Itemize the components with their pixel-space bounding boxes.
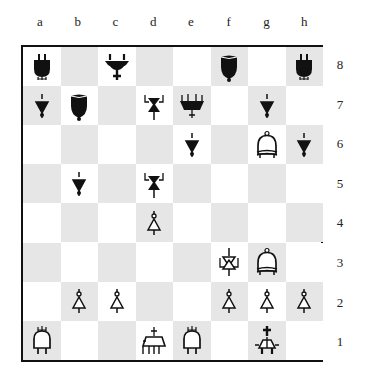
square-g2[interactable] [248,282,286,321]
square-g5[interactable] [248,164,286,203]
square-g3[interactable] [248,243,286,282]
square-e6[interactable] [173,125,211,164]
rank-label-2: 2 [330,283,350,323]
square-c5[interactable] [98,164,136,203]
square-f4[interactable] [211,203,249,242]
square-b6[interactable] [61,125,99,164]
rank-label-7: 7 [330,85,350,125]
white-bishop-icon[interactable] [248,243,286,282]
square-f1[interactable] [211,321,249,360]
black-rook-icon[interactable] [23,47,61,86]
square-d2[interactable] [136,282,174,321]
square-c6[interactable] [98,125,136,164]
square-b1[interactable] [61,321,99,360]
square-a6[interactable] [23,125,61,164]
square-h7[interactable] [286,86,324,125]
black-pawn-icon[interactable] [23,86,61,125]
square-c8[interactable] [98,47,136,86]
white-pawn-icon[interactable] [286,282,324,321]
square-e7[interactable] [173,86,211,125]
white-rook-icon[interactable] [173,321,211,360]
white-pawn-icon[interactable] [61,282,99,321]
square-h5[interactable] [286,164,324,203]
black-bishop-icon[interactable] [61,86,99,125]
square-a1[interactable] [23,321,61,360]
black-bishop-icon[interactable] [211,47,249,86]
square-h4[interactable] [286,203,324,242]
square-d4[interactable] [136,203,174,242]
square-g1[interactable] [248,321,286,360]
black-knight-icon[interactable] [136,86,174,125]
square-a8[interactable] [23,47,61,86]
square-h6[interactable] [286,125,324,164]
square-h2[interactable] [286,282,324,321]
square-b8[interactable] [61,47,99,86]
square-a7[interactable] [23,86,61,125]
white-king-icon[interactable] [248,321,286,360]
square-e4[interactable] [173,203,211,242]
square-g8[interactable] [248,47,286,86]
chess-board[interactable] [21,45,323,362]
square-a4[interactable] [23,203,61,242]
file-label-b: b [59,14,97,30]
square-c1[interactable] [98,321,136,360]
white-pawn-icon[interactable] [136,203,174,242]
white-knight-icon[interactable] [211,243,249,282]
white-queen-icon[interactable] [136,321,174,360]
square-e1[interactable] [173,321,211,360]
square-d8[interactable] [136,47,174,86]
square-f2[interactable] [211,282,249,321]
square-b3[interactable] [61,243,99,282]
square-a5[interactable] [23,164,61,203]
white-bishop-icon[interactable] [248,125,286,164]
square-f3[interactable] [211,243,249,282]
black-knight-icon[interactable] [136,164,174,203]
square-d7[interactable] [136,86,174,125]
square-d5[interactable] [136,164,174,203]
square-d3[interactable] [136,243,174,282]
square-g7[interactable] [248,86,286,125]
square-b4[interactable] [61,203,99,242]
white-pawn-icon[interactable] [211,282,249,321]
square-e5[interactable] [173,164,211,203]
square-b7[interactable] [61,86,99,125]
black-pawn-icon[interactable] [286,125,324,164]
rank-label-5: 5 [330,164,350,204]
rank-label-3: 3 [330,243,350,283]
square-f7[interactable] [211,86,249,125]
square-c3[interactable] [98,243,136,282]
file-label-f: f [210,14,248,30]
black-pawn-icon[interactable] [173,125,211,164]
file-label-e: e [172,14,210,30]
square-e2[interactable] [173,282,211,321]
square-f5[interactable] [211,164,249,203]
square-b5[interactable] [61,164,99,203]
square-f6[interactable] [211,125,249,164]
rank-label-8: 8 [330,45,350,85]
black-king-icon[interactable] [98,47,136,86]
rank-labels: 87654321 [330,45,350,362]
black-queen-icon[interactable] [173,86,211,125]
square-d1[interactable] [136,321,174,360]
square-h8[interactable] [286,47,324,86]
square-h1[interactable] [286,321,324,360]
square-c4[interactable] [98,203,136,242]
square-d6[interactable] [136,125,174,164]
black-pawn-icon[interactable] [248,86,286,125]
square-h3[interactable] [286,243,324,282]
white-pawn-icon[interactable] [248,282,286,321]
black-rook-icon[interactable] [286,47,324,86]
square-e3[interactable] [173,243,211,282]
square-c2[interactable] [98,282,136,321]
square-a2[interactable] [23,282,61,321]
square-f8[interactable] [211,47,249,86]
black-pawn-icon[interactable] [61,164,99,203]
square-g6[interactable] [248,125,286,164]
white-rook-icon[interactable] [23,321,61,360]
square-b2[interactable] [61,282,99,321]
square-g4[interactable] [248,203,286,242]
square-a3[interactable] [23,243,61,282]
square-e8[interactable] [173,47,211,86]
square-c7[interactable] [98,86,136,125]
white-pawn-icon[interactable] [98,282,136,321]
